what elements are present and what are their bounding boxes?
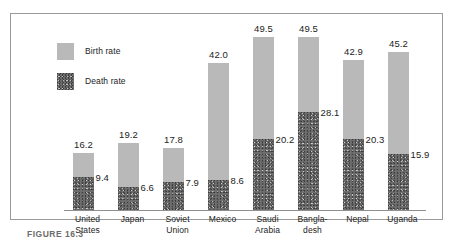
- bar-total-value-label: 42.0: [199, 49, 239, 60]
- bar-segment-death-rate: [388, 154, 409, 210]
- bar-segment-death-rate: [343, 139, 364, 210]
- bar-death-value-label: 6.6: [141, 182, 155, 193]
- bar-death-value-label: 7.9: [186, 177, 200, 188]
- figure-container: Birth rate Death rate 16.29.4UnitedState…: [0, 0, 455, 241]
- bar-total-value-label: 45.2: [379, 38, 419, 49]
- bar-segment-birth-rate: [73, 153, 94, 177]
- bar-segment-death-rate: [208, 180, 229, 210]
- bar-death-value-label: 15.9: [411, 149, 430, 160]
- bar-segment-birth-rate: [208, 63, 229, 180]
- bar-group: 42.920.3Nepal: [334, 28, 380, 210]
- stacked-bar: [253, 37, 274, 210]
- bar-group: 49.520.2SaudiArabia: [244, 28, 290, 210]
- bar-total-value-label: 19.2: [109, 129, 149, 140]
- x-axis-category-label: Uganda: [377, 214, 429, 225]
- chart-frame: Birth rate Death rate 16.29.4UnitedState…: [10, 13, 443, 220]
- stacked-bar: [73, 153, 94, 210]
- bar-segment-birth-rate: [343, 60, 364, 139]
- plot-area: 16.29.4UnitedStates19.26.6Japan17.87.9So…: [29, 28, 432, 209]
- bar-segment-birth-rate: [163, 148, 184, 183]
- bar-segment-birth-rate: [253, 37, 274, 140]
- bar-segment-birth-rate: [388, 52, 409, 155]
- bars-area: 16.29.4UnitedStates19.26.6Japan17.87.9So…: [64, 28, 424, 210]
- stacked-bar: [343, 60, 364, 210]
- stacked-bar: [118, 143, 139, 210]
- bar-death-value-label: 9.4: [96, 172, 110, 183]
- bar-group: 42.08.6Mexico: [199, 28, 245, 210]
- bar-segment-death-rate: [163, 182, 184, 210]
- bar-segment-death-rate: [253, 139, 274, 210]
- category-label-line: Union: [152, 225, 204, 236]
- figure-caption: FIGURE 16.3: [27, 229, 84, 239]
- category-label-line: desh: [287, 225, 339, 236]
- bar-group: 17.87.9SovietUnion: [154, 28, 200, 210]
- bar-total-value-label: 49.5: [244, 23, 284, 34]
- stacked-bar: [163, 148, 184, 210]
- stacked-bar: [208, 63, 229, 210]
- bar-segment-death-rate: [118, 187, 139, 210]
- bar-segment-birth-rate: [118, 143, 139, 187]
- category-label-line: Uganda: [377, 214, 429, 225]
- stacked-bar: [298, 37, 319, 210]
- bar-total-value-label: 42.9: [334, 46, 374, 57]
- bar-segment-death-rate: [298, 112, 319, 210]
- bar-total-value-label: 49.5: [289, 23, 329, 34]
- bar-total-value-label: 17.8: [154, 134, 194, 145]
- bar-segment-birth-rate: [298, 37, 319, 112]
- bar-segment-death-rate: [73, 177, 94, 210]
- x-axis-line: [64, 210, 426, 211]
- bar-group: 16.29.4UnitedStates: [64, 28, 110, 210]
- bar-group: 49.528.1Bangla-desh: [289, 28, 335, 210]
- bar-total-value-label: 16.2: [64, 139, 104, 150]
- stacked-bar: [388, 52, 409, 210]
- bar-group: 19.26.6Japan: [109, 28, 155, 210]
- bar-death-value-label: 8.6: [231, 175, 245, 186]
- bar-group: 45.215.9Uganda: [379, 28, 425, 210]
